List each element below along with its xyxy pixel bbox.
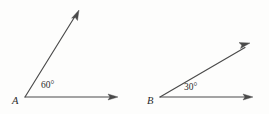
angle-a-group: A 60° xyxy=(11,10,118,106)
angle-measure-label-b: 30° xyxy=(184,82,198,92)
vertex-label-b: B xyxy=(147,95,154,106)
angle-figure: A 60° B 30° xyxy=(0,0,269,114)
angle-measure-label-a: 60° xyxy=(41,80,55,90)
vertex-label-a: A xyxy=(11,95,19,106)
angle-b-group: B 30° xyxy=(147,43,253,106)
angle-diagram-canvas: A 60° B 30° xyxy=(0,0,269,114)
angle-b-slanted-ray xyxy=(160,48,245,98)
